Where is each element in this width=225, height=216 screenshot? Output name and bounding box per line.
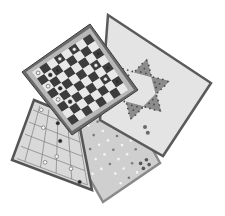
game-boards-photo <box>0 0 225 216</box>
